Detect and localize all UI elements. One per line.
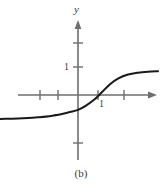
plot-area xyxy=(0,0,162,186)
x-axis-arrowhead xyxy=(148,92,157,99)
figure-caption: (b) xyxy=(0,168,162,179)
y-axis-label: y xyxy=(74,4,79,15)
y-axis-arrowhead xyxy=(75,20,82,29)
y-axis-tick-label-1: 1 xyxy=(64,62,69,72)
x-axis-tick-label-1: 1 xyxy=(99,99,104,109)
figure-panel-b: y 1 1 (b) xyxy=(0,0,162,186)
